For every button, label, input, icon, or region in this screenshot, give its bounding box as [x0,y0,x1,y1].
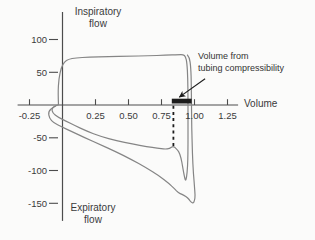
x-tick-label: 0.75 [152,110,171,121]
x-tick-label: 1.25 [218,110,237,121]
x-tick-label: 0.50 [119,110,138,121]
x-tick-label: -0.25 [19,110,41,121]
annotation-arrow [179,79,205,97]
tubing-compressibility-annotation: Volume from tubing compressibility [198,51,284,74]
x-tick-label: 0.25 [86,110,105,121]
y-tick-label: 50 [0,67,47,78]
y-tick-label: -100 [0,165,47,176]
expiratory-flow-label: Expiratory flow [56,202,130,225]
inspiratory-flow-label-line1: Inspiratory [62,6,134,18]
annotation-line2: tubing compressibility [198,63,284,75]
y-tick-label: -150 [0,198,47,209]
y-tick-label: 100 [0,34,47,45]
y-tick-label: -50 [0,132,47,143]
annotation-line1: Volume from [198,51,284,63]
inspiratory-flow-label: Inspiratory flow [62,6,134,29]
compressibility-bar [172,99,192,104]
volume-axis-label: Volume [244,98,277,109]
expiratory-flow-label-line1: Expiratory [56,202,130,214]
expiratory-flow-label-line2: flow [56,214,130,226]
x-tick-label: 1.00 [185,110,204,121]
breath-loop-outer-curve [49,55,195,203]
flow-volume-figure: Inspiratory flow Expiratory flow Volume … [0,0,315,240]
inspiratory-flow-label-line2: flow [62,18,134,30]
